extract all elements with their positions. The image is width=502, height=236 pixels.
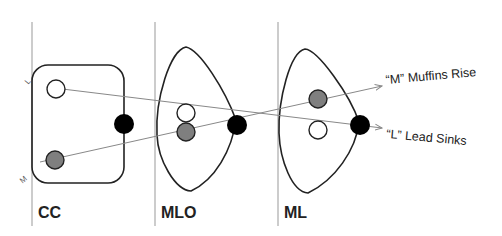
mammography-triangulation-diagram: L M CC MLO ML “M” Muffins Rise “L” Lead …: [0, 0, 502, 236]
diagram-canvas: L M CC MLO ML “M” Muffins Rise “L” Lead …: [0, 0, 502, 236]
mlo-lateral-lesion: [177, 104, 195, 122]
view-label-ml: ML: [284, 204, 307, 221]
side-label-medial: M: [18, 174, 29, 185]
cc-breast-outline: [32, 65, 124, 183]
view-label-cc: CC: [38, 204, 62, 221]
callout-lead-sinks: “L” Lead Sinks: [386, 127, 468, 148]
ml-nipple: [350, 115, 370, 135]
cc-lateral-lesion: [47, 80, 65, 98]
ml-medial-lesion: [309, 90, 327, 108]
ml-lateral-lesion: [309, 121, 327, 139]
cc-medial-lesion: [46, 151, 64, 169]
cc-nipple: [114, 114, 134, 134]
mlo-breast-outline: [157, 47, 236, 191]
medial-lesion-track-line: [40, 86, 382, 162]
mlo-medial-lesion: [177, 123, 195, 141]
mlo-nipple: [227, 115, 247, 135]
callout-muffins-rise: “M” Muffins Rise: [385, 65, 477, 87]
lateral-lesion-track-line: [46, 87, 382, 128]
view-label-mlo: MLO: [161, 204, 197, 221]
